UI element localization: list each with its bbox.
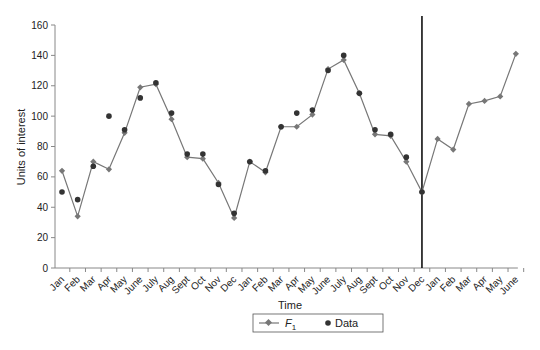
data-point: [216, 182, 222, 188]
f1-marker: [106, 166, 112, 172]
data-point: [404, 154, 410, 160]
data-point: [310, 107, 316, 113]
legend-data-dot-icon: [325, 320, 331, 326]
f1-marker: [137, 84, 143, 90]
data-point: [341, 53, 347, 59]
legend-data-label: Data: [335, 317, 359, 329]
f1-marker: [497, 93, 503, 99]
data-point: [372, 127, 378, 133]
x-axis-title: Time: [278, 299, 302, 311]
data-point: [122, 127, 128, 133]
data-point: [231, 211, 237, 217]
data-point: [294, 110, 300, 116]
data-point: [106, 113, 112, 119]
data-point: [263, 168, 269, 174]
f1-marker: [75, 213, 81, 219]
y-tick-label: 0: [42, 263, 48, 274]
x-tick-label: June: [497, 273, 520, 296]
data-point: [278, 124, 284, 130]
data-point: [184, 151, 190, 157]
y-tick-label: 100: [31, 111, 48, 122]
data-point: [388, 132, 394, 138]
data-point: [59, 189, 65, 195]
y-tick-label: 140: [31, 50, 48, 61]
data-point: [137, 95, 143, 101]
data-point: [200, 151, 206, 157]
x-axis: JanFebMarAprMayJuneJulyAugSeptOctNovDecJ…: [47, 268, 523, 297]
y-tick-label: 40: [37, 202, 49, 213]
f1-marker: [466, 101, 472, 107]
chart-container: 020406080100120140160 JanFebMarAprMayJun…: [0, 0, 540, 350]
f1-marker: [481, 98, 487, 104]
chart-plot: 020406080100120140160 JanFebMarAprMayJun…: [0, 0, 540, 350]
f1-marker: [59, 168, 65, 174]
data-point: [153, 80, 159, 86]
y-tick-label: 60: [37, 171, 49, 182]
series-f1-line: [59, 51, 519, 221]
data-point: [169, 110, 175, 116]
data-point: [419, 189, 425, 195]
data-point: [75, 197, 81, 203]
y-tick-label: 120: [31, 80, 48, 91]
y-axis-title: Units of interest: [15, 109, 27, 185]
f1-polyline: [62, 54, 516, 218]
legend: F1 Data: [253, 314, 383, 332]
f1-marker: [513, 51, 519, 57]
y-tick-label: 20: [37, 232, 49, 243]
y-tick-label: 80: [37, 141, 49, 152]
data-point: [91, 163, 97, 169]
f1-marker: [168, 116, 174, 122]
data-point: [247, 159, 253, 165]
data-point: [325, 68, 331, 74]
y-axis: 020406080100120140160: [31, 20, 55, 274]
y-tick-label: 160: [31, 20, 48, 31]
data-point: [357, 91, 363, 97]
